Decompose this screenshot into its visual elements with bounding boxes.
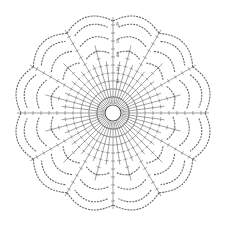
round-number-label: 3 [116, 66, 119, 72]
center-ring [105, 105, 121, 121]
round-number-label: 6 [116, 21, 119, 27]
round-number-label: 5 [116, 38, 119, 44]
round-number-label: 2 [116, 78, 119, 84]
crochet-diagram: 23456 [0, 0, 227, 228]
round-numbers: 23456 [116, 21, 119, 84]
round-number-label: 4 [116, 52, 119, 58]
